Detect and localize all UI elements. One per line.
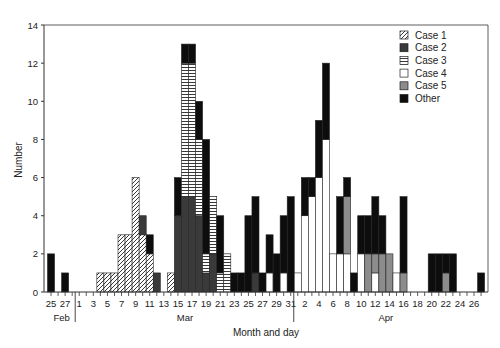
bar-segment-other — [238, 273, 245, 292]
x-tick-label: 22 — [441, 298, 452, 309]
epidemic-curve-chart: 02468101214 2527135791113151719212325272… — [0, 0, 500, 348]
bar-segment-case-2 — [189, 197, 196, 292]
bar-segment-case-4 — [301, 216, 308, 292]
legend-swatch-case1 — [400, 31, 408, 39]
bar-segment-other — [266, 235, 273, 273]
bar-segment-case-5 — [386, 254, 393, 292]
x-tick-label: 4 — [316, 298, 321, 309]
x-tick-label: 9 — [133, 298, 138, 309]
x-tick-label: 6 — [330, 298, 335, 309]
x-tick-label: 13 — [159, 298, 170, 309]
bar-segment-case-2 — [139, 216, 146, 235]
x-tick-label: 2 — [302, 298, 307, 309]
bar-segment-case-1 — [118, 235, 125, 292]
y-tick-label: 14 — [27, 20, 38, 31]
y-tick-label: 0 — [33, 287, 38, 298]
bar-segment-other — [337, 197, 344, 254]
bar-segment-case-2 — [196, 216, 203, 292]
bar-segment-case-1 — [97, 273, 104, 292]
bar-segment-case-3 — [210, 197, 217, 254]
bar-segment-case-1 — [125, 235, 132, 292]
month-label: Feb — [53, 312, 69, 323]
bar-segment-case-1 — [132, 178, 139, 292]
bar-segment-other — [189, 44, 196, 63]
bar-segment-case-3 — [189, 63, 196, 196]
bar-segment-other — [400, 197, 407, 273]
bar-segment-case-4 — [322, 139, 329, 292]
x-tick-label: 18 — [412, 298, 423, 309]
x-tick-label: 3 — [91, 298, 96, 309]
bar-segment-other — [435, 254, 442, 292]
bar-segment-other — [245, 216, 252, 292]
x-axis-title: Month and day — [233, 327, 299, 338]
y-tick-label: 10 — [27, 96, 38, 107]
bar-segment-case-4 — [294, 273, 301, 292]
x-tick-label: 16 — [398, 298, 409, 309]
bar-segment-other — [287, 197, 294, 292]
legend-label-case4: Case 4 — [415, 68, 447, 79]
bar-segment-case-1 — [167, 273, 174, 292]
bar-segment-other — [280, 216, 287, 273]
month-label: Mar — [177, 312, 193, 323]
legend-label-case5: Case 5 — [415, 80, 447, 91]
bar-segment-case-4 — [358, 254, 365, 292]
bar-segment-other — [379, 216, 386, 254]
x-tick-label: 8 — [344, 298, 349, 309]
bar-segment-case-3 — [217, 273, 224, 292]
x-tick-label: 11 — [145, 298, 155, 309]
x-tick-label: 7 — [119, 298, 124, 309]
bar-segment-case-4 — [344, 254, 351, 292]
legend-swatch-case2 — [400, 44, 408, 52]
bar-segment-other — [273, 254, 280, 292]
bar-segment-other — [449, 254, 456, 292]
legend-swatch-case3 — [400, 56, 408, 64]
bar-segment-other — [252, 197, 259, 273]
bar-segment-other — [146, 235, 153, 254]
legend: Case 1Case 2Case 3Case 4Case 5Other — [400, 30, 447, 105]
bar-segment-other — [217, 216, 224, 273]
y-tick-label: 12 — [27, 58, 38, 69]
bar-segment-case-4 — [337, 254, 344, 292]
bar-segment-other — [196, 101, 203, 139]
bar-segment-case-5 — [365, 254, 372, 292]
bar-segment-other — [428, 254, 435, 292]
bar-segment-other — [372, 197, 379, 254]
x-tick-label: 21 — [215, 298, 226, 309]
x-tick-label: 14 — [384, 298, 395, 309]
bar-segment-case-4 — [308, 197, 315, 292]
x-tick-label: 25 — [243, 298, 254, 309]
legend-label-case1: Case 1 — [415, 30, 447, 41]
legend-label-other: Other — [415, 93, 441, 104]
bar-segment-other — [181, 44, 188, 63]
month-label: Apr — [379, 312, 394, 323]
y-tick-label: 4 — [33, 210, 38, 221]
x-tick-label: 10 — [356, 298, 367, 309]
bar-segment-other — [478, 273, 485, 292]
x-tick-label: 29 — [271, 298, 282, 309]
x-tick-label: 20 — [426, 298, 437, 309]
bar-segment-other — [48, 254, 55, 292]
bar-segment-case-4 — [330, 254, 337, 292]
y-tick-label: 6 — [33, 172, 38, 183]
x-tick-label: 25 — [46, 298, 57, 309]
bar-segment-case-4 — [266, 273, 273, 292]
x-tick-label: 31 — [285, 298, 296, 309]
y-tick-label: 2 — [33, 248, 38, 259]
bar-segment-case-3 — [181, 63, 188, 196]
x-tick-label: 1 — [77, 298, 82, 309]
bar-segment-case-2 — [203, 273, 210, 292]
legend-label-case3: Case 3 — [415, 55, 447, 66]
bar-segment-other — [442, 254, 449, 273]
x-tick-label: 27 — [257, 298, 268, 309]
bar-segment-other — [174, 178, 181, 216]
x-tick-label: 26 — [469, 298, 480, 309]
bar-segment-case-1 — [111, 273, 118, 292]
bar-segment-case-2 — [252, 273, 259, 292]
bar-segment-case-2 — [181, 197, 188, 292]
bar-segment-case-4 — [280, 273, 287, 292]
x-tick-label: 23 — [229, 298, 240, 309]
bar-segment-case-2 — [153, 273, 160, 292]
y-tick-label: 8 — [33, 134, 38, 145]
bar-segment-case-1 — [139, 235, 146, 292]
bar-segment-other — [344, 178, 351, 197]
